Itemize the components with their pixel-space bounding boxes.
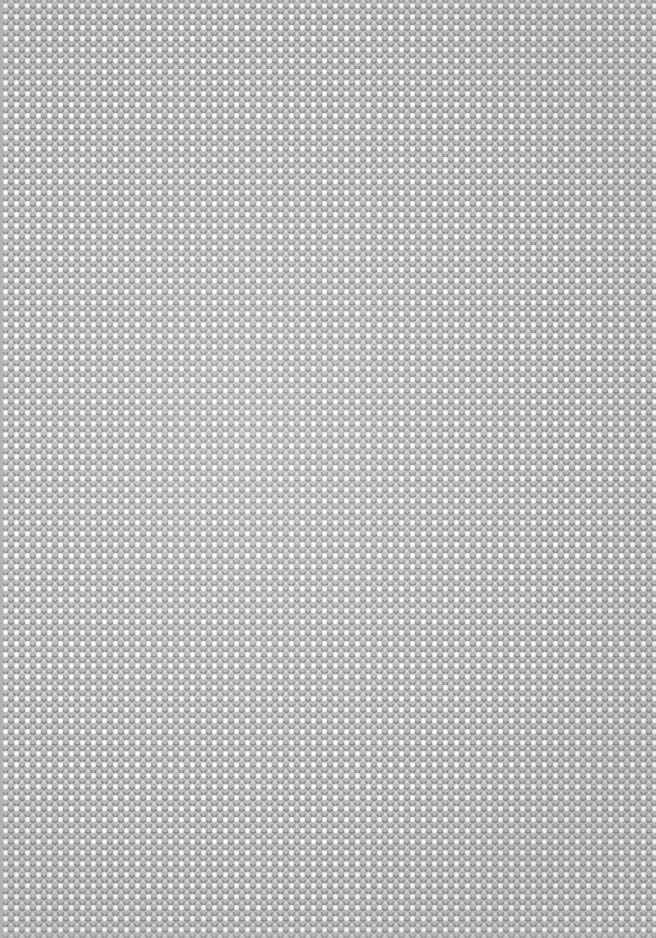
diagonal-weave-layer xyxy=(0,0,656,938)
bright-dot-lattice-layer xyxy=(0,0,656,938)
edge-fade-layer xyxy=(0,0,656,938)
radial-vignette-layer xyxy=(0,0,656,938)
texture-canvas xyxy=(0,0,656,938)
offset-dim-dot-lattice-layer xyxy=(0,0,656,938)
left-margin-strip xyxy=(0,0,4,938)
pixel-grain-layer xyxy=(0,0,656,938)
